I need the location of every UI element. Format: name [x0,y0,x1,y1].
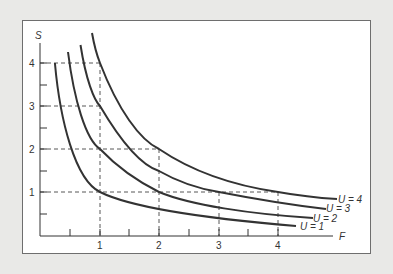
curve-label-u4: U = 4 [338,194,363,205]
y-tick-2: 2 [29,144,35,155]
y-tick-1: 1 [29,187,35,198]
curves [55,33,337,226]
indifference-curve-chart: S F 1 2 3 4 1 2 3 4 U = 1 U = 2 U = 3 U … [0,0,393,274]
y-axis-label: S [35,30,42,41]
curve-u3 [81,45,327,209]
x-tick-1: 1 [97,240,103,251]
x-tick-4: 4 [275,240,281,251]
y-tick-3: 3 [29,101,35,112]
x-tick-2: 2 [156,240,162,251]
curve-label-u2: U = 2 [313,213,338,224]
axes [40,43,333,236]
x-tick-3: 3 [216,240,222,251]
x-axis-label: F [339,231,346,242]
y-tick-4: 4 [29,58,35,69]
